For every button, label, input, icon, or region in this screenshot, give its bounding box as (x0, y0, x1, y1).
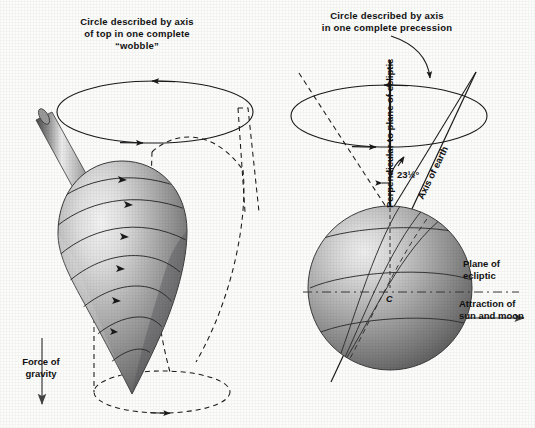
tilt-angle-label: 23½° (397, 169, 419, 181)
figure-artwork (0, 0, 535, 428)
perpendicular-to-ecliptic-label: Perpendicular to plane of ecliptic (384, 59, 396, 208)
precession-figure: Circle described by axis of top in one c… (0, 0, 535, 428)
left-panel-caption: Circle described by axis of top in one c… (52, 16, 222, 52)
attraction-of-sun-and-moon-label: Attraction of sun and moon (459, 298, 524, 322)
plane-of-ecliptic-label: Plane of ecliptic (463, 258, 500, 282)
earth-center-label: C (386, 294, 393, 305)
force-of-gravity-label: Force of gravity (4, 356, 78, 380)
right-panel-caption: Circle described by axis in one complete… (292, 10, 482, 34)
